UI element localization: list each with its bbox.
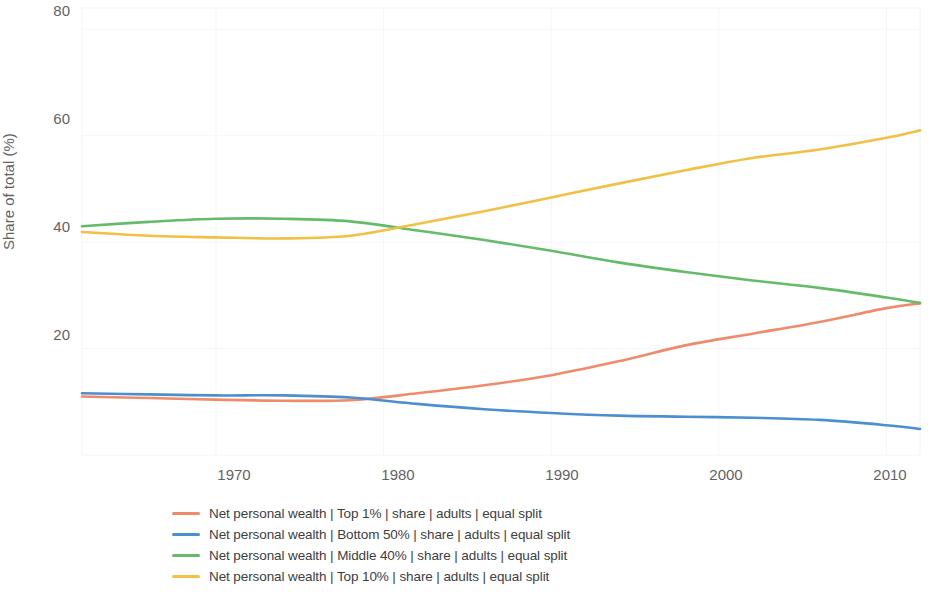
legend-swatch-bottom-50 (172, 533, 200, 536)
legend-label-middle-40: Net personal wealth | Middle 40% | share… (209, 548, 567, 563)
legend-item-middle-40[interactable]: Net personal wealth | Middle 40% | share… (172, 545, 772, 566)
gridlines (82, 8, 920, 455)
legend-label-top-1: Net personal wealth | Top 1% | share | a… (209, 506, 542, 521)
legend: Net personal wealth | Top 1% | share | a… (172, 503, 772, 587)
series-line-3 (82, 130, 920, 238)
plot-border (82, 8, 920, 455)
legend-item-bottom-50[interactable]: Net personal wealth | Bottom 50% | share… (172, 524, 772, 545)
legend-item-top-10[interactable]: Net personal wealth | Top 10% | share | … (172, 566, 772, 587)
series-line-2 (82, 218, 920, 302)
series-line-0 (82, 303, 920, 401)
legend-label-bottom-50: Net personal wealth | Bottom 50% | share… (209, 527, 570, 542)
wealth-share-line-chart: Share of total (%) 80 60 40 20 1970 1980… (0, 0, 933, 601)
legend-swatch-top-10 (172, 575, 200, 578)
legend-item-top-1[interactable]: Net personal wealth | Top 1% | share | a… (172, 503, 772, 524)
legend-swatch-top-1 (172, 512, 200, 515)
series-lines (82, 130, 920, 429)
legend-label-top-10: Net personal wealth | Top 10% | share | … (209, 569, 549, 584)
legend-swatch-middle-40 (172, 554, 200, 557)
